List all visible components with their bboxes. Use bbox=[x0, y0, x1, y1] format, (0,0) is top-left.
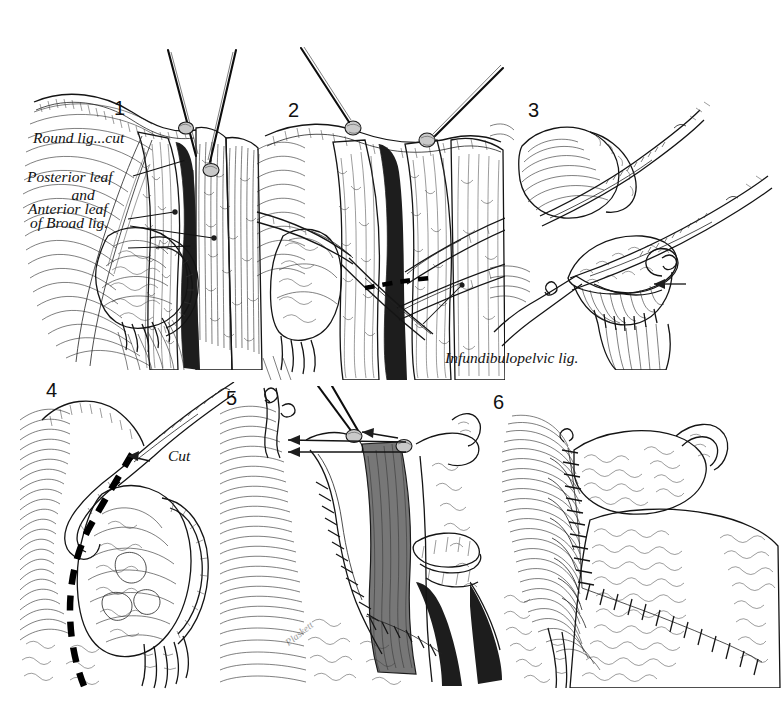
panel-number-2: 2 bbox=[288, 100, 299, 120]
label-round-ligament-cut: Round lig...cut bbox=[33, 129, 124, 147]
label-of-broad-ligament: of Broad lig. bbox=[30, 214, 108, 232]
lobulated-texture-lower bbox=[582, 529, 775, 682]
panel-2 bbox=[255, 40, 505, 380]
uterus-body bbox=[196, 127, 262, 370]
crushed-rim-texture bbox=[580, 245, 669, 283]
panel-4 bbox=[20, 382, 235, 692]
illustration-plate: 1 Round lig...cut Posterior leaf and Ant… bbox=[0, 0, 784, 726]
lower-left-strokes bbox=[263, 356, 291, 380]
tie-stump-left bbox=[345, 121, 361, 135]
fundal-crest bbox=[42, 401, 144, 446]
bottom-fold bbox=[548, 628, 567, 688]
suture-line-diagonal bbox=[582, 584, 762, 675]
panel-number-1: 1 bbox=[114, 98, 125, 118]
clamp-top-right bbox=[114, 382, 234, 486]
suture-line-vertical bbox=[560, 429, 594, 588]
clamp-upper bbox=[540, 102, 710, 226]
panel-5 bbox=[220, 386, 482, 686]
panel-2-artwork bbox=[255, 40, 505, 380]
posterior-leaf-texture bbox=[141, 164, 174, 344]
fimbriae-2 bbox=[281, 336, 315, 374]
stump-vertical-shading bbox=[582, 286, 664, 323]
peritoneal-trough bbox=[362, 442, 462, 686]
suture-needle-left bbox=[168, 50, 198, 156]
clamp-lower bbox=[570, 176, 772, 290]
panel-number-5: 5 bbox=[226, 388, 237, 408]
panel-6 bbox=[470, 392, 782, 688]
panel-5-artwork bbox=[220, 386, 482, 686]
label-cut: Cut bbox=[168, 447, 190, 465]
upper-lobulated-tissue bbox=[574, 431, 706, 514]
ligature-suture bbox=[494, 249, 686, 347]
clamp-top-teeth bbox=[156, 393, 216, 440]
suture-needle-right bbox=[203, 50, 236, 177]
panel-3-artwork bbox=[490, 80, 784, 370]
label-posterior-leaf: Posterior leaf bbox=[27, 168, 113, 186]
panel-3 bbox=[490, 80, 784, 370]
lobulated-texture-upper bbox=[582, 447, 684, 506]
panel-4-artwork bbox=[20, 382, 235, 692]
mass-fine-texture bbox=[96, 521, 142, 636]
fimbrial-fronds bbox=[142, 636, 188, 688]
panel-number-6: 6 bbox=[493, 392, 504, 412]
tie-stump-right bbox=[419, 133, 435, 147]
lower-left-recess bbox=[470, 582, 502, 684]
left-fringe-tissue bbox=[490, 124, 530, 302]
adnexa-convolutions bbox=[279, 243, 318, 323]
uterine-wall-hatching bbox=[20, 409, 70, 640]
right-horn-curl bbox=[676, 424, 728, 470]
panel-6-artwork bbox=[470, 392, 782, 688]
tube-and-fimbriae bbox=[142, 498, 208, 688]
panel-number-3: 3 bbox=[528, 100, 539, 120]
lower-pedicle-stump bbox=[568, 236, 677, 370]
ovarian-mass bbox=[77, 486, 191, 657]
suture-thread-top bbox=[264, 386, 360, 458]
panel-number-4: 4 bbox=[46, 380, 57, 400]
left-sidewall-hatching bbox=[257, 142, 305, 276]
suture-needle-left-2 bbox=[301, 47, 351, 122]
lower-left-tissue bbox=[22, 641, 99, 684]
